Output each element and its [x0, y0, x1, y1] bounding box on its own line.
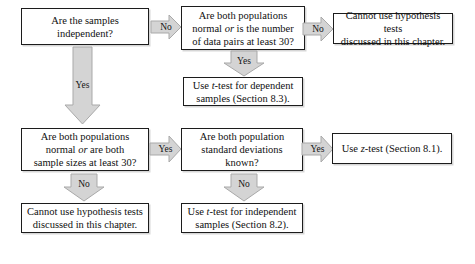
node-z-test-label: Use z-test (Section 8.1). [342, 142, 443, 155]
arrow-label-no-2: No [303, 24, 333, 34]
node-indep-normal-or-30-label: Are both populationsnormal or are bothsa… [34, 130, 137, 169]
arrow-indep-normal-yes: Yes [150, 135, 181, 163]
node-paired-normal-or-30: Are both populationsnormal or is the num… [181, 6, 305, 50]
node-indep-normal-or-30: Are both populationsnormal or are bothsa… [21, 128, 149, 171]
arrow-sigmas-known-no: No [224, 174, 264, 202]
arrow-sigmas-known-yes: Yes [302, 135, 333, 163]
node-cannot-use-indep-label: Cannot use hypothesis testsdiscussed in … [27, 205, 143, 231]
arrow-label-no-4: No [224, 179, 264, 189]
node-cannot-use-indep: Cannot use hypothesis testsdiscussed in … [21, 203, 149, 233]
node-samples-independent-label: Are the samplesindependent? [51, 14, 119, 40]
arrow-label-yes-3: Yes [150, 144, 181, 154]
arrow-indep-normal-no: No [64, 174, 104, 202]
node-sigmas-known-label: Are both populationstandard deviationskn… [200, 130, 285, 169]
arrow-label-yes-2: Yes [224, 56, 264, 66]
node-cannot-use-paired-label: Cannot use hypothesis testsdiscussed in … [338, 9, 448, 48]
node-paired-normal-or-30-label: Are both populationsnormal or is the num… [192, 9, 294, 48]
flowchart-diagram: Are the samplesindependent? No Are both … [0, 0, 475, 264]
node-sigmas-known: Are both populationstandard deviationskn… [181, 128, 303, 171]
arrow-label-no-3: No [64, 179, 104, 189]
node-samples-independent: Are the samplesindependent? [21, 8, 149, 45]
arrow-samples-independent-yes: Yes [64, 47, 101, 125]
arrow-label-no-1: No [151, 22, 181, 32]
arrow-label-yes-1: Yes [64, 80, 101, 90]
arrow-paired-normal-yes: Yes [224, 51, 264, 77]
node-t-test-independent-label: Use t-test for independentsamples (Secti… [188, 205, 297, 231]
arrow-label-yes-4: Yes [302, 144, 333, 154]
node-t-test-independent: Use t-test for independentsamples (Secti… [181, 203, 303, 233]
node-t-test-dependent-label: Use t-test for dependentsamples (Section… [193, 79, 294, 105]
node-t-test-dependent: Use t-test for dependentsamples (Section… [183, 77, 303, 106]
node-z-test: Use z-test (Section 8.1). [332, 133, 452, 164]
arrow-paired-normal-no: No [303, 16, 333, 42]
node-cannot-use-paired: Cannot use hypothesis testsdiscussed in … [333, 13, 453, 44]
arrow-samples-independent-no: No [151, 14, 181, 40]
